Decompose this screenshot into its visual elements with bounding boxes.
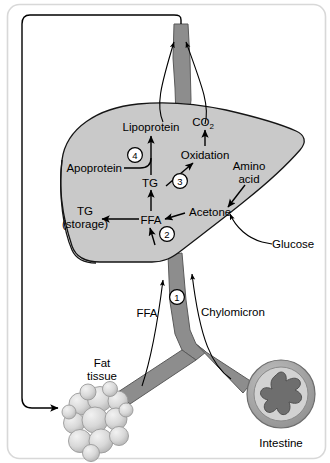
step-marker-1: 1	[170, 290, 185, 305]
label-tg: TG	[142, 177, 158, 189]
step-marker-3: 3	[173, 174, 188, 189]
label-fat-tissue-line2: tissue	[87, 370, 117, 382]
label-oxidation: Oxidation	[181, 149, 230, 161]
label-amino-acid-line1: Amino	[233, 160, 266, 172]
intestine-cross-section	[247, 360, 315, 428]
label-apoprotein: Apoprotein	[66, 162, 122, 174]
step-marker-2: 2	[160, 227, 175, 242]
step-marker-3-number: 3	[177, 176, 182, 187]
label-ffa-vessel: FFA	[136, 307, 157, 319]
label-chylomicron: Chylomicron	[201, 306, 265, 318]
label-amino-acid-line2: acid	[238, 173, 259, 185]
label-acetone: Acetone	[189, 206, 231, 218]
label-tg-storage-line2: (storage)	[62, 218, 108, 230]
label-lipoprotein: Lipoprotein	[123, 121, 180, 133]
label-ffa-liver: FFA	[140, 214, 161, 226]
step-marker-4: 4	[128, 148, 143, 163]
step-marker-2-number: 2	[164, 229, 169, 240]
step-marker-1-number: 1	[174, 292, 179, 303]
metabolism-diagram: Lipoprotein CO2 Oxidation Apoprotein TG …	[0, 0, 330, 463]
figure-root: Lipoprotein CO2 Oxidation Apoprotein TG …	[0, 0, 330, 463]
label-fat-tissue-line1: Fat	[94, 357, 111, 369]
label-tg-storage-line1: TG	[77, 205, 93, 217]
step-marker-4-number: 4	[132, 150, 137, 161]
label-intestine: Intestine	[259, 437, 302, 449]
label-glucose: Glucose	[272, 238, 314, 250]
